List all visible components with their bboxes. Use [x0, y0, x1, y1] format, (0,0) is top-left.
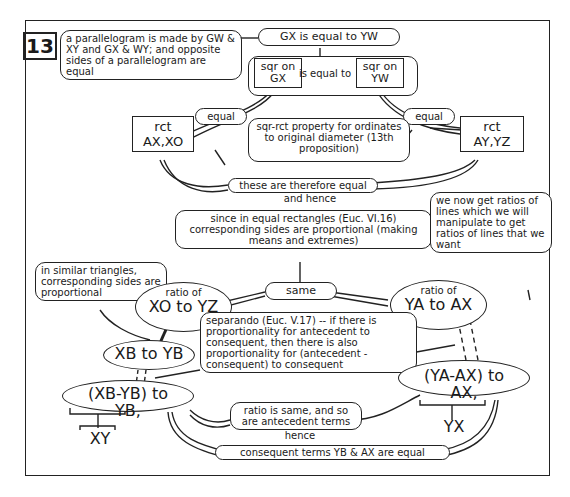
ya-minus-ax-ellipse: (YA-AX) to AX, [398, 360, 530, 396]
xy-label: XY [80, 430, 120, 447]
ratio-is-same-note: ratio is same, and so are antecedent ter… [230, 402, 362, 430]
therefore-equal-note: these are therefore equal [228, 178, 378, 193]
same-note: same [265, 282, 337, 300]
separando-note: separando (Euc. V.17) -- if there is pro… [200, 312, 417, 373]
equal-left-note: equal [195, 108, 247, 125]
parallelogram-note: a parallelogram is made by GW & XY and G… [60, 30, 242, 80]
xb-minus-yb-ellipse: (XB-YB) to YB, [62, 380, 194, 412]
xb-to-yb-ellipse: XB to YB [103, 340, 195, 370]
rct-ay-yz-box: rct AY,YZ [460, 116, 524, 152]
is-equal-to-label: is equal to [296, 68, 354, 80]
sqr-on-gx-box: sqr on GX [254, 58, 302, 88]
and-hence-label: and hence [280, 193, 340, 204]
since-equal-rectangles-note: since in equal rectangles (Euc. VI.16) c… [175, 210, 432, 249]
sqr-on-yw-box: sqr on YW [356, 58, 404, 88]
equal-right-note: equal [403, 108, 455, 125]
rct-ax-xo-box: rct AX,XO [132, 116, 194, 152]
ratio-ya-ax-value: YA to AX [401, 296, 476, 313]
gx-equal-yw-note: GX is equal to YW [258, 28, 400, 46]
sqr-rct-property-note: sqr-rct property for ordinates to origin… [248, 118, 410, 162]
consequent-terms-note: consequent terms YB & AX are equal [215, 445, 450, 460]
yx-label: YX [434, 418, 474, 435]
hence-label: hence [280, 430, 320, 441]
ratios-of-lines-note: we now get ratios of lines which we will… [430, 192, 552, 253]
